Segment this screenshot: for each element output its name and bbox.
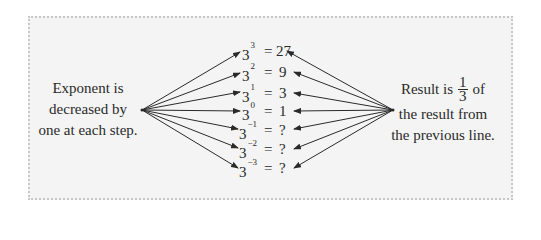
equals-sign: = bbox=[264, 65, 272, 80]
equation-result: ? bbox=[279, 123, 286, 138]
equals-sign: = bbox=[264, 142, 272, 157]
equation-exponent: 1 bbox=[251, 82, 256, 92]
equation-result: 27 bbox=[276, 44, 291, 59]
left-arrow-5 bbox=[142, 110, 238, 129]
left-arrow-6 bbox=[142, 110, 238, 148]
right-caption-prefix: Result is bbox=[401, 81, 453, 97]
one-third-fraction: 13 bbox=[458, 76, 468, 103]
equation-result: 3 bbox=[279, 86, 287, 101]
equals-sign: = bbox=[264, 86, 272, 101]
equation-result: ? bbox=[279, 161, 286, 176]
equation-base: 3 bbox=[239, 145, 247, 161]
equation-exponent: 3 bbox=[251, 40, 256, 50]
right-arrow-7 bbox=[294, 110, 393, 168]
right-caption-line-2: the result from bbox=[388, 104, 498, 125]
equation-base: 3 bbox=[242, 89, 250, 105]
fraction-denominator: 3 bbox=[458, 90, 468, 103]
left-arrows bbox=[142, 52, 240, 168]
left-caption-line: one at each step. bbox=[38, 120, 138, 141]
equals-sign: = bbox=[264, 104, 272, 119]
left-arrow-2 bbox=[142, 73, 240, 110]
right-arrows bbox=[287, 51, 393, 168]
equation-base: 3 bbox=[242, 68, 250, 84]
equation-exponent: −2 bbox=[248, 138, 258, 148]
equation-base: 3 bbox=[239, 164, 247, 180]
equation-base: 3 bbox=[239, 126, 247, 142]
right-caption: Result is13of the result from the previo… bbox=[388, 76, 498, 146]
right-caption-line-1: Result is13of bbox=[388, 76, 498, 104]
right-caption-suffix: of bbox=[473, 81, 486, 97]
equation-exponent: 0 bbox=[251, 100, 256, 110]
right-arrow-5 bbox=[294, 110, 393, 129]
equation-result: ? bbox=[279, 142, 286, 157]
left-arrow-7 bbox=[142, 110, 238, 168]
equation-exponent: 2 bbox=[251, 61, 256, 71]
left-arrow-4 bbox=[142, 110, 240, 111]
right-caption-line-3: the previous line. bbox=[388, 125, 498, 146]
left-caption-line: decreased by bbox=[38, 99, 138, 120]
equation-result: 1 bbox=[279, 104, 287, 119]
left-convergence-point bbox=[141, 109, 144, 112]
equation-result: 9 bbox=[279, 65, 287, 80]
right-arrow-4 bbox=[294, 110, 393, 111]
left-caption: Exponent is decreased by one at each ste… bbox=[38, 78, 138, 141]
equation-exponent: −1 bbox=[248, 119, 258, 129]
equals-sign: = bbox=[264, 161, 272, 176]
equals-sign: = bbox=[264, 123, 272, 138]
equals-sign: = bbox=[264, 44, 272, 59]
equation-exponent: −3 bbox=[248, 157, 258, 167]
equation-base: 3 bbox=[242, 47, 250, 63]
left-caption-line: Exponent is bbox=[38, 78, 138, 99]
right-arrow-6 bbox=[294, 110, 393, 149]
right-arrow-2 bbox=[294, 72, 393, 110]
